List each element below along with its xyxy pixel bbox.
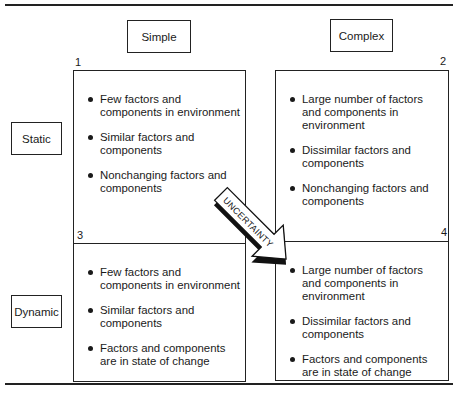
arrow-label: UNCERTAINTY (221, 195, 275, 249)
uncertainty-arrow-icon: UNCERTAINTY (0, 0, 459, 396)
